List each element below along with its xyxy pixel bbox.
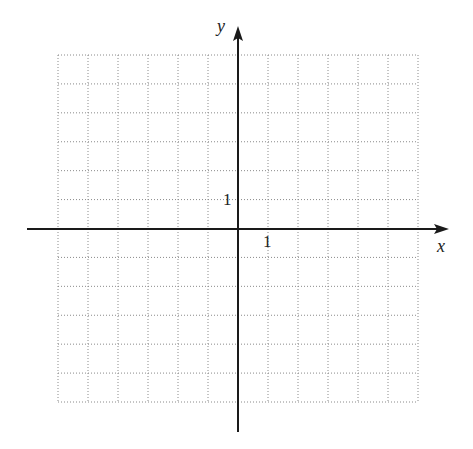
y-axis-label: y <box>217 16 225 37</box>
x-tick-label-1: 1 <box>263 232 272 252</box>
y-tick-label-1: 1 <box>223 190 232 210</box>
x-axis-label: x <box>437 236 445 257</box>
coordinate-plane <box>0 0 473 449</box>
